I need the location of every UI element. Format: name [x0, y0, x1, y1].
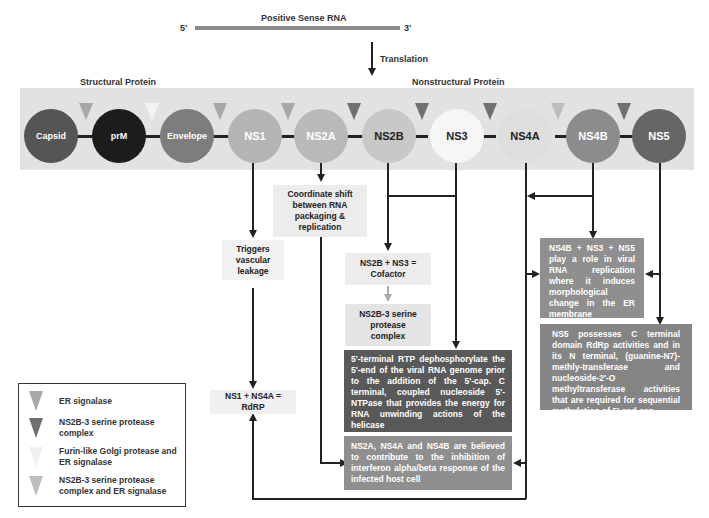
- ns5-function-box: NS5 possesses C terminal domain RdRp act…: [540, 324, 692, 410]
- protein-ns4a: NS4A: [498, 109, 552, 163]
- protein-envelope: Envelope: [160, 109, 214, 163]
- ns5-connector: [659, 163, 661, 319]
- ns3-function-box: 5'-terminal RTP dephosphorylate the 5'-e…: [344, 350, 512, 432]
- ns2a-to-interferon-connector: [320, 237, 322, 463]
- legend-item-er-signalase: ER signalase: [29, 391, 112, 411]
- ns2b3-protease-triangle-icon: [483, 103, 497, 120]
- ns4a-to-replication: [525, 273, 535, 275]
- protein-label: NS2A: [306, 130, 335, 142]
- protein-prm: prM: [92, 109, 146, 163]
- ns4b-branch: [535, 195, 593, 197]
- interferon-box: NS2A, NS4A and NS4B are believed to cont…: [344, 436, 512, 490]
- protein-ns5: NS5: [632, 109, 686, 163]
- arrow-head: [317, 174, 325, 182]
- protein-ns2a: NS2A: [294, 109, 348, 163]
- legend: ER signalase NS2B-3 serine protease comp…: [18, 383, 186, 507]
- ns1-to-rdrp-connector: [252, 288, 254, 382]
- protein-ns3: NS3: [430, 109, 484, 163]
- ns4b-connector: [592, 163, 594, 233]
- legend-item-ns2b3-er: NS2B-3 serine protease complex and ER si…: [29, 475, 184, 497]
- legend-label: ER signalase: [59, 396, 112, 407]
- protease-complex-box: NS2B-3 serine protease complex: [345, 304, 431, 346]
- protein-label: NS2B: [374, 130, 403, 142]
- protein-label: NS4B: [578, 130, 607, 142]
- arrow-head: [384, 294, 392, 302]
- arrow-head: [645, 270, 653, 278]
- er-signalase-triangle-icon: [29, 391, 43, 411]
- ns2a-function-box: Coordinate shift between RNA packaging &…: [273, 185, 367, 237]
- ns3-connector: [455, 163, 457, 343]
- protein-label: NS3: [446, 130, 467, 142]
- ns3-branch: [387, 195, 455, 197]
- arrow-head: [249, 381, 257, 389]
- er-signalase-triangle-icon: [79, 103, 93, 120]
- protein-ns2b: NS2B: [362, 109, 416, 163]
- ns2b3-protease-triangle-icon: [415, 103, 429, 120]
- legend-label: NS2B-3 serine protease complex: [59, 417, 169, 439]
- five-prime-label: 5': [180, 23, 187, 33]
- ns2a-to-interferon-connector: [320, 462, 342, 464]
- protein-label: Envelope: [167, 131, 207, 141]
- er-signalase-triangle-icon: [213, 103, 227, 120]
- cofactor-box: NS2B + NS3 = Cofactor: [345, 253, 431, 285]
- protein-label: NS1: [244, 130, 265, 142]
- structural-protein-label: Structural Protein: [80, 77, 156, 87]
- ns2b3-protease-triangle-icon: [617, 103, 631, 120]
- arrow-head: [249, 230, 257, 238]
- rna-strand: [195, 26, 400, 30]
- arrow-head: [513, 459, 521, 467]
- arrow-head: [384, 243, 392, 251]
- furin-golgi-triangle-icon: [145, 103, 159, 120]
- ns4a-connector: [525, 163, 527, 499]
- ns4a-to-rdrp-connector: [252, 498, 526, 500]
- arrow-head: [249, 413, 257, 421]
- ns1-connector: [252, 163, 254, 231]
- protein-label: NS4A: [510, 130, 539, 142]
- er-signalase-triangle-icon: [281, 103, 295, 120]
- link: [482, 135, 496, 138]
- furin-golgi-triangle-icon: [29, 447, 43, 467]
- translation-arrow-head: [368, 68, 376, 76]
- protein-label: prM: [111, 131, 128, 141]
- ns2b-connector: [387, 163, 389, 245]
- arrow-head: [527, 192, 535, 200]
- replication-box: NS4B + NS3 + NS5 play a role in viral RN…: [540, 238, 644, 318]
- translation-label: Translation: [380, 54, 428, 64]
- protein-ns1: NS1: [228, 109, 282, 163]
- ns4a-to-rdrp-connector: [252, 420, 254, 499]
- legend-label: NS2B-3 serine protease complex and ER si…: [59, 475, 184, 497]
- rdrp-box: NS1 + NS4A = RdRP: [210, 390, 296, 414]
- arrow-head: [452, 341, 460, 349]
- protein-capsid: Capsid: [24, 109, 78, 163]
- rna-label: Positive Sense RNA: [261, 13, 347, 23]
- protein-ns4b: NS4B: [566, 109, 620, 163]
- translation-arrow-line: [371, 42, 373, 70]
- nonstructural-protein-label: Nonstructural Protein: [412, 77, 505, 87]
- legend-label: Furin-like Golgi protease and ER signala…: [59, 446, 184, 468]
- ns2b3-er-triangle-icon: [29, 476, 43, 496]
- ns2b3-protease-triangle-icon: [29, 418, 43, 438]
- three-prime-label: 3': [404, 23, 411, 33]
- protein-label: NS5: [648, 130, 669, 142]
- legend-item-furin-golgi: Furin-like Golgi protease and ER signala…: [29, 446, 184, 468]
- legend-item-ns2b3-protease: NS2B-3 serine protease complex: [29, 417, 169, 439]
- ns2b3-er-triangle-icon: [551, 103, 565, 120]
- ns2b3-protease-triangle-icon: [347, 103, 361, 120]
- protein-label: Capsid: [36, 131, 66, 141]
- ns1-function-box: Triggers vascular leakage: [222, 240, 284, 280]
